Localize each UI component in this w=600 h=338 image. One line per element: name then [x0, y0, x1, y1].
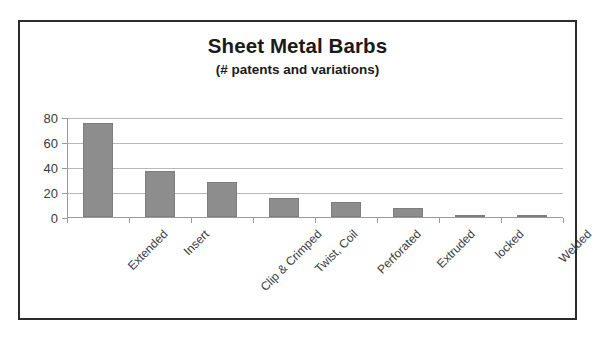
x-axis-category-label: Perforated — [374, 227, 424, 277]
x-axis-category-label: Extruded — [434, 227, 478, 271]
y-axis-tick-label: 80 — [44, 111, 58, 126]
plot-wrapper: 020406080 ExtendedInsertClip & CrimpedTw… — [20, 22, 575, 318]
x-axis-category-label: Welded — [556, 227, 595, 266]
x-axis-tick — [439, 218, 440, 223]
gridline — [67, 168, 563, 169]
bar — [145, 171, 175, 217]
x-axis-tick — [377, 218, 378, 223]
x-axis-tick — [67, 218, 68, 223]
x-axis-tick — [191, 218, 192, 223]
chart-frame: Sheet Metal Barbs (# patents and variati… — [18, 20, 577, 320]
x-axis-tick — [563, 218, 564, 223]
x-axis-category-label: Insert — [181, 227, 212, 258]
gridline — [67, 143, 563, 144]
y-axis-tick-label: 40 — [44, 161, 58, 176]
bar — [393, 208, 423, 217]
x-axis-category-label: locked — [492, 227, 526, 261]
y-axis-tick-label: 20 — [44, 186, 58, 201]
y-axis-line — [67, 118, 68, 218]
y-axis-tick-label: 0 — [51, 211, 58, 226]
gridline — [67, 118, 563, 119]
x-axis-tick — [129, 218, 130, 223]
x-axis-category-label: Clip & Crimped — [258, 227, 325, 294]
y-axis-tick-label: 60 — [44, 136, 58, 151]
bar — [269, 198, 299, 217]
bar — [83, 123, 113, 217]
x-axis-tick — [315, 218, 316, 223]
gridline — [67, 193, 563, 194]
x-axis-category-label: Extended — [125, 227, 171, 273]
x-axis-tick — [253, 218, 254, 223]
bar — [331, 202, 361, 217]
x-axis-tick — [501, 218, 502, 223]
plot-area: 020406080 ExtendedInsertClip & CrimpedTw… — [67, 118, 563, 218]
x-axis-line — [67, 217, 563, 218]
bar — [207, 182, 237, 217]
